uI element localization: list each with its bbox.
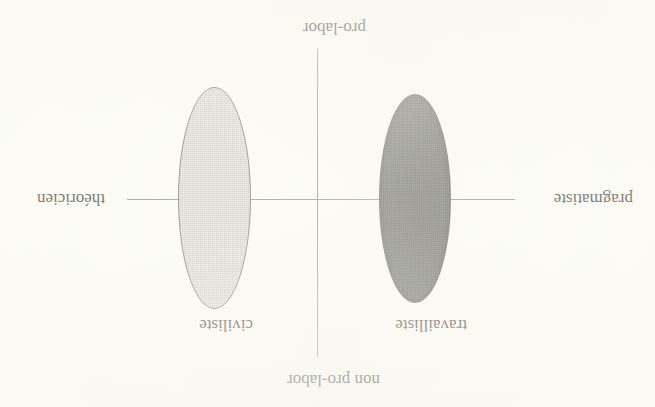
group-label-travailliste: travailliste xyxy=(395,317,467,334)
axis-label-pragmatiste: pragmatiste xyxy=(554,191,633,208)
axis-label-theoricien: théoricien xyxy=(37,191,105,208)
ellipse-civiliste xyxy=(178,87,251,309)
diagram-figure: non pro-labor pro-labor pragmatiste théo… xyxy=(0,0,655,407)
axis-label-pro-labor: pro-labor xyxy=(303,20,366,37)
group-label-civiliste: civiliste xyxy=(199,317,253,334)
ellipse-travailliste xyxy=(379,94,451,303)
vertical-axis-line xyxy=(317,49,318,357)
axis-label-non-pro-labor: non pro-labor xyxy=(287,372,380,389)
diagram-canvas: non pro-labor pro-labor pragmatiste théo… xyxy=(0,0,655,407)
